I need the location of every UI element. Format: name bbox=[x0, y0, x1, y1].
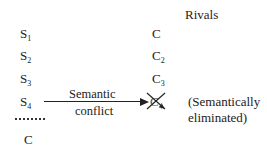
cross-out-icon bbox=[146, 92, 166, 110]
rival-c2: C2 bbox=[152, 49, 165, 63]
annotation-line1: (Semantically bbox=[188, 95, 260, 109]
conclusion-c: C bbox=[24, 133, 33, 147]
rivals-heading: Rivals bbox=[185, 8, 218, 22]
arrow-label-top: Semantic bbox=[69, 87, 116, 101]
rival-c: C bbox=[152, 27, 161, 41]
inference-line bbox=[15, 118, 45, 120]
rival-c3: C3 bbox=[152, 72, 165, 86]
premise-s1: S1 bbox=[20, 27, 31, 41]
premise-s2: S2 bbox=[20, 49, 31, 63]
arrow-label-bottom: conflict bbox=[75, 104, 113, 118]
annotation-line2: eliminated) bbox=[188, 111, 247, 125]
premise-s4: S4 bbox=[20, 95, 31, 109]
arrow-head-icon bbox=[140, 98, 149, 106]
premise-s3: S3 bbox=[20, 72, 31, 86]
semantic-conflict-arrow bbox=[44, 101, 142, 102]
